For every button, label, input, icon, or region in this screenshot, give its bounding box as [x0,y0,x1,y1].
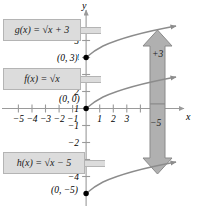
svg-text:3: 3 [123,114,129,124]
point-h-intercept [83,191,88,196]
svg-text:1: 1 [97,114,102,124]
label-point-g-intercept: (0, 3) [57,54,78,64]
svg-text:2: 2 [111,114,116,124]
y-axis-label: y [82,1,86,11]
svg-text:−1: −1 [68,121,79,131]
callout-function-f: f(x) = √x [3,68,81,90]
callout-function-g: g(x) = √x + 3 [3,19,81,41]
svg-text:−2: −2 [54,114,65,124]
point-g-intercept [83,55,88,60]
callout-pointer-g [79,27,101,34]
label-shift-down: −5 [150,119,161,129]
svg-text:−5: −5 [13,114,24,124]
label-shift-up: +3 [152,50,163,60]
x-axis-tick-labels: −5 −4 −3 −2 −1 1 2 3 5 [13,114,157,124]
callout-function-h: h(x) = √x − 5 [3,152,85,174]
svg-text:−3: −3 [40,114,51,124]
svg-text:1: 1 [74,104,79,114]
label-point-h-intercept: (0, −5) [51,186,78,196]
svg-text:−2: −2 [68,138,79,148]
shift-up-arrow [143,30,172,104]
callout-pointer-f [79,76,101,83]
callout-pointer-h [83,160,105,167]
label-point-f-intercept: (0, 0) [59,95,80,105]
point-f-intercept [83,106,88,111]
svg-text:−4: −4 [26,114,37,124]
x-axis-label: x [186,112,190,122]
square-root-shift-figure: −5 −4 −3 −2 −1 1 2 3 5 [0,0,197,211]
